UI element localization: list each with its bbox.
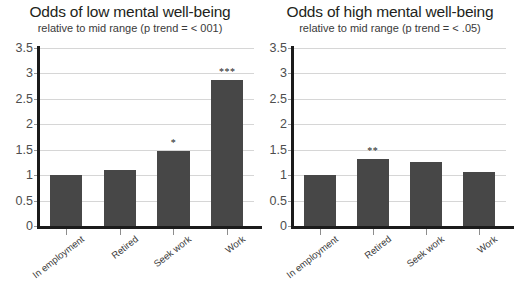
bar <box>104 170 136 226</box>
significance-marker: *** <box>211 67 243 77</box>
y-tick-label: 2.5 <box>16 93 33 106</box>
panel-subtitle-left: relative to mid range (p trend = < 001) <box>0 21 260 34</box>
panel-title-right: Odds of high mental well-being <box>260 0 520 21</box>
plot-area-right: 00.511.522.533.5 ** In employmentRetired… <box>293 48 506 226</box>
panel-low-wellbeing: Odds of low mental well-being relative t… <box>0 0 260 283</box>
y-tick-label: 1.5 <box>270 143 287 156</box>
plot-area-left: 00.511.522.533.5 **** In employmentRetir… <box>39 48 254 226</box>
bar-group <box>304 48 336 226</box>
panel-subtitle-right: relative to mid range (p trend = < .05) <box>260 21 520 34</box>
bar-group <box>410 48 442 226</box>
y-tick-label: 3.5 <box>270 42 287 55</box>
x-tick-label: In employment <box>1 234 86 283</box>
bar <box>304 175 336 226</box>
significance-marker: ** <box>357 146 389 156</box>
bar-group: * <box>157 48 189 226</box>
bar <box>410 162 442 226</box>
x-tick-labels-right: In employmentRetiredSeek workWork <box>293 234 506 283</box>
y-tick-label: 3 <box>280 67 287 80</box>
panel-high-wellbeing: Odds of high mental well-being relative … <box>260 0 520 283</box>
y-tick-label: 1.5 <box>16 143 33 156</box>
x-tick-label: In employment <box>255 234 340 283</box>
bars-right: ** <box>293 48 506 226</box>
y-tick-label: 0 <box>26 220 33 233</box>
bar <box>463 172 495 226</box>
bar-group <box>463 48 495 226</box>
y-tick-label: 2 <box>280 118 287 131</box>
figure-two-panel-bar-charts: Odds of low mental well-being relative t… <box>0 0 520 283</box>
bar-group <box>50 48 82 226</box>
y-tick-label: 1 <box>280 169 287 182</box>
significance-marker: * <box>157 138 189 148</box>
panel-title-left: Odds of low mental well-being <box>0 0 260 21</box>
bar <box>157 151 189 226</box>
y-tick-label: 2.5 <box>270 93 287 106</box>
y-tick-label: 0.5 <box>270 194 287 207</box>
y-tick-label: 0.5 <box>16 194 33 207</box>
y-tick-label: 3.5 <box>16 42 33 55</box>
bar-group: ** <box>357 48 389 226</box>
bars-left: **** <box>39 48 254 226</box>
y-tick-label: 0 <box>280 220 287 233</box>
bar <box>211 80 243 226</box>
bar-group: *** <box>211 48 243 226</box>
bar <box>357 159 389 226</box>
x-tick-labels-left: In employmentRetiredSeek workWork <box>39 234 254 283</box>
y-tick-label: 1 <box>26 169 33 182</box>
bar <box>50 175 82 226</box>
y-tick-label: 3 <box>26 67 33 80</box>
y-tick-label: 2 <box>26 118 33 131</box>
bar-group <box>104 48 136 226</box>
